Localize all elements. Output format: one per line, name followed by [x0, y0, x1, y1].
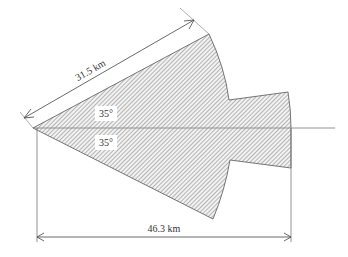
upper-angle-label: 35°	[99, 108, 113, 119]
lower-angle-label: 35°	[99, 137, 113, 148]
coverage-diagram: 31.5 km 35° 35° 46.3 km	[0, 0, 348, 257]
coverage-region	[33, 34, 291, 219]
slant-range-label: 31.5 km	[73, 57, 107, 83]
horizontal-range-label: 46.3 km	[148, 223, 181, 234]
